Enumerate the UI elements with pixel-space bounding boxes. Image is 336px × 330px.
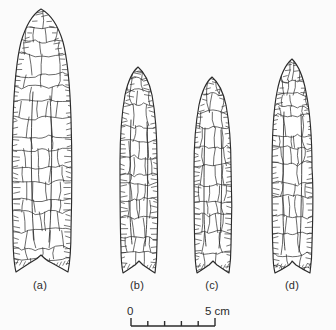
specimen-d (268, 59, 317, 288)
specimen-b (116, 67, 162, 273)
scale-bar (131, 318, 215, 326)
specimen-body-a (12, 9, 72, 272)
specimen-label-c: (c) (192, 279, 232, 291)
specimen-body-d (272, 59, 313, 273)
specimen-label-a: (a) (20, 279, 60, 291)
specimen-c (190, 77, 236, 283)
specimen-label-b: (b) (117, 279, 157, 291)
scale-max-label: 5 cm (205, 305, 230, 317)
specimen-a (8, 9, 76, 276)
specimen-label-d: (d) (272, 279, 312, 291)
scale-min-label: 0 (127, 305, 133, 317)
